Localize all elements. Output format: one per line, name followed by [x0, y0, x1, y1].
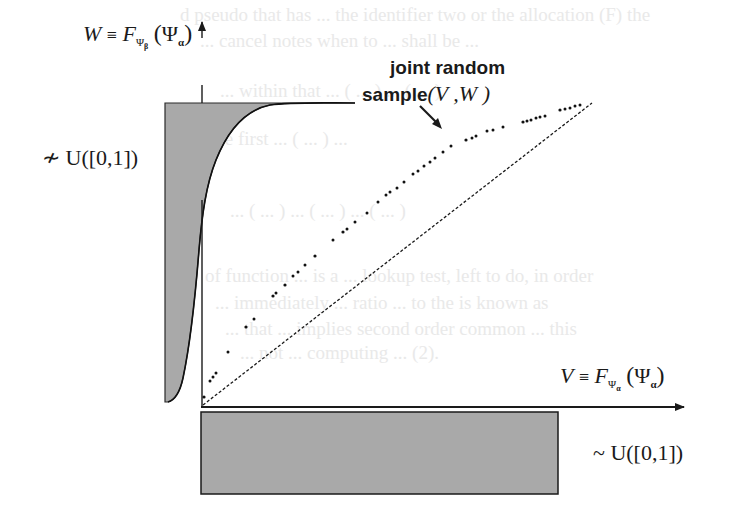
equiv-symbol: ≡: [107, 25, 117, 45]
bottom-marginal-label: ~ U([0,1]): [593, 440, 683, 466]
cdf-function: F: [595, 363, 608, 388]
v-axis-label: V ≡ FΨα (Ψα): [560, 362, 665, 389]
function-subscript: Ψβ: [136, 36, 148, 48]
annotation-line1: joint random: [362, 55, 505, 81]
function-subscript: Ψα: [608, 378, 621, 390]
joint-sample-annotation: joint random sample(V ,W ): [362, 55, 505, 108]
equiv-symbol: ≡: [579, 367, 589, 387]
w-axis-label: W ≡ FΨβ (Ψα): [83, 20, 192, 47]
annotation-line2: sample(V ,W ): [362, 81, 505, 108]
diagonal-dashed-line: [203, 103, 592, 405]
left-marginal-label: ≁ U([0,1]): [42, 145, 138, 171]
bottom-marginal-uniform: [201, 412, 558, 494]
psi-arg: Ψ: [634, 363, 650, 388]
sample-scatter-points: [202, 104, 581, 399]
left-marginal-density: [165, 103, 355, 402]
psi-arg: Ψ: [162, 21, 178, 46]
w-var: W: [83, 21, 101, 46]
cdf-function: F: [122, 21, 135, 46]
annotation-arrow: [420, 106, 442, 129]
v-var: V: [560, 363, 573, 388]
